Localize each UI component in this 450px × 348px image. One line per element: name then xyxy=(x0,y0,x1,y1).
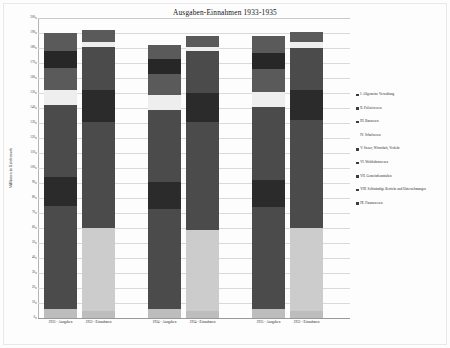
y-axis-tick-mark xyxy=(35,228,37,229)
bars-layer xyxy=(38,18,350,318)
bar-segment[interactable] xyxy=(252,180,285,207)
legend-item-label: II. Polizeiwesen xyxy=(360,107,381,111)
bar-segment[interactable] xyxy=(290,90,323,120)
bar-segment[interactable] xyxy=(290,42,323,48)
legend-swatch-icon xyxy=(356,148,359,151)
bar-segment[interactable] xyxy=(82,228,115,311)
gridline xyxy=(38,318,350,319)
bar-segment[interactable] xyxy=(252,107,285,181)
bar-segment[interactable] xyxy=(186,47,219,52)
y-axis-tick-mark xyxy=(35,168,37,169)
bar-segment[interactable] xyxy=(148,110,181,182)
legend-item-label: I. Allgemeine Verwaltung xyxy=(360,93,394,97)
y-axis-tick-mark xyxy=(35,288,37,289)
legend-item[interactable]: VI. Wohlfahrtswesen xyxy=(356,161,448,175)
legend-item[interactable]: II. Polizeiwesen xyxy=(356,107,448,121)
stacked-bar[interactable] xyxy=(290,18,323,318)
y-axis-tick-mark xyxy=(35,123,37,124)
bar-segment[interactable] xyxy=(290,32,323,43)
y-axis-label: Millionen in Reichsmark xyxy=(6,18,16,318)
legend-item-label: V. Steuer, Wirtschaft, Verkehr xyxy=(360,147,399,151)
legend-swatch-icon xyxy=(356,121,359,124)
chart-title: Ausgaben-Einnahmen 1933-1935 xyxy=(0,8,450,17)
legend: I. Allgemeine VerwaltungII. Polizeiwesen… xyxy=(356,93,448,215)
bar-segment[interactable] xyxy=(44,51,77,68)
legend-item-label: VII. Gemeindeanstalten xyxy=(360,175,392,179)
legend-item[interactable]: I. Allgemeine Verwaltung xyxy=(356,93,448,107)
legend-swatch-icon xyxy=(356,162,359,165)
y-axis-tick-mark xyxy=(35,108,37,109)
legend-item[interactable]: IV. Schulwesen xyxy=(356,134,448,148)
bar-segment[interactable] xyxy=(148,45,181,59)
y-axis-tick-mark xyxy=(35,318,37,319)
stacked-bar[interactable] xyxy=(44,18,77,318)
x-axis-tick-label: 1935 - Einnahmen xyxy=(247,320,367,324)
legend-item[interactable]: VIII. Selbständige Betriebe und Unterneh… xyxy=(356,188,448,202)
legend-item-label: IV. Schulwesen xyxy=(360,134,380,138)
legend-item-label: VI. Wohlfahrtswesen xyxy=(360,161,388,165)
bar-segment[interactable] xyxy=(290,228,323,311)
stacked-bar[interactable] xyxy=(148,18,181,318)
legend-swatch-icon xyxy=(356,107,359,110)
bar-segment[interactable] xyxy=(148,59,181,74)
legend-item-label: III. Bauwesen xyxy=(360,120,379,124)
bar-segment[interactable] xyxy=(82,122,115,229)
y-axis-tick-mark xyxy=(35,48,37,49)
bar-segment[interactable] xyxy=(186,93,219,122)
y-axis-tick-mark xyxy=(35,213,37,214)
bar-segment[interactable] xyxy=(252,36,285,53)
bar-segment[interactable] xyxy=(252,92,285,107)
bar-segment[interactable] xyxy=(252,69,285,92)
bar-segment[interactable] xyxy=(148,182,181,209)
stacked-bar[interactable] xyxy=(252,18,285,318)
chart-page: Ausgaben-Einnahmen 1933-1935 Millionen i… xyxy=(0,0,450,348)
bar-segment[interactable] xyxy=(290,120,323,228)
bar-segment[interactable] xyxy=(186,311,219,319)
y-axis-tick-mark xyxy=(35,273,37,274)
y-axis-tick-mark xyxy=(35,303,37,304)
legend-swatch-icon xyxy=(356,94,359,97)
legend-swatch-icon xyxy=(356,202,359,205)
legend-item[interactable]: III. Bauwesen xyxy=(356,120,448,134)
bar-segment[interactable] xyxy=(290,311,323,319)
bar-segment[interactable] xyxy=(186,51,219,93)
y-axis-tick-mark xyxy=(35,78,37,79)
bar-segment[interactable] xyxy=(252,309,285,318)
y-axis-tick-mark xyxy=(35,183,37,184)
legend-item[interactable]: IX. Finanzwesen xyxy=(356,202,448,216)
y-axis-tick-mark xyxy=(35,198,37,199)
bar-segment[interactable] xyxy=(44,90,77,105)
bar-segment[interactable] xyxy=(44,206,77,310)
bar-segment[interactable] xyxy=(44,309,77,318)
stacked-bar[interactable] xyxy=(82,18,115,318)
bar-segment[interactable] xyxy=(44,33,77,51)
bar-segment[interactable] xyxy=(148,209,181,310)
bar-segment[interactable] xyxy=(186,122,219,230)
legend-item[interactable]: V. Steuer, Wirtschaft, Verkehr xyxy=(356,147,448,161)
legend-item-label: VIII. Selbständige Betriebe und Unterneh… xyxy=(360,188,426,192)
bar-segment[interactable] xyxy=(252,207,285,309)
legend-swatch-icon xyxy=(356,134,359,137)
stacked-bar[interactable] xyxy=(186,18,219,318)
bar-segment[interactable] xyxy=(44,68,77,91)
bar-segment[interactable] xyxy=(252,53,285,70)
bar-segment[interactable] xyxy=(82,30,115,42)
bar-segment[interactable] xyxy=(82,42,115,47)
bar-segment[interactable] xyxy=(186,36,219,47)
bar-segment[interactable] xyxy=(290,48,323,90)
bar-segment[interactable] xyxy=(44,105,77,177)
legend-swatch-icon xyxy=(356,189,359,192)
bar-segment[interactable] xyxy=(82,311,115,319)
y-axis-tick-mark xyxy=(35,63,37,64)
bar-segment[interactable] xyxy=(186,230,219,311)
bar-segment[interactable] xyxy=(148,74,181,95)
bar-segment[interactable] xyxy=(148,95,181,110)
bar-segment[interactable] xyxy=(44,177,77,206)
y-axis-tick-mark xyxy=(35,138,37,139)
legend-item-label: IX. Finanzwesen xyxy=(360,202,382,206)
bar-segment[interactable] xyxy=(82,90,115,122)
bar-segment[interactable] xyxy=(148,309,181,318)
legend-item[interactable]: VII. Gemeindeanstalten xyxy=(356,175,448,189)
bar-segment[interactable] xyxy=(82,47,115,91)
y-axis-tick-mark xyxy=(35,153,37,154)
